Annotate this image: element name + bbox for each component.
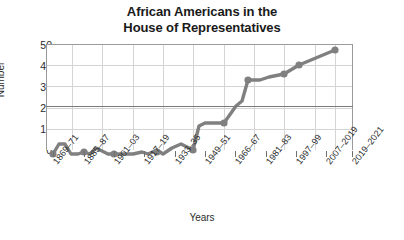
chart-title: African Americans in the House of Repres… bbox=[0, 4, 404, 36]
data-point-2007-2019 bbox=[331, 46, 338, 53]
chart-title-line-2: House of Representatives bbox=[0, 20, 404, 36]
data-point-1949-51 bbox=[220, 119, 227, 126]
x-axis-line bbox=[46, 106, 353, 107]
data-series-line bbox=[47, 44, 352, 150]
data-point-1997-99 bbox=[295, 61, 302, 68]
data-point-1981-83 bbox=[280, 70, 287, 77]
y-axis-title: Number bbox=[0, 62, 6, 98]
data-point-1966-67 bbox=[244, 76, 251, 83]
plot-area bbox=[47, 44, 352, 150]
x-axis-title: Years bbox=[0, 212, 404, 223]
chart-title-line-1: African Americans in the bbox=[0, 4, 404, 20]
chart-root: African Americans in the House of Repres… bbox=[0, 0, 404, 240]
